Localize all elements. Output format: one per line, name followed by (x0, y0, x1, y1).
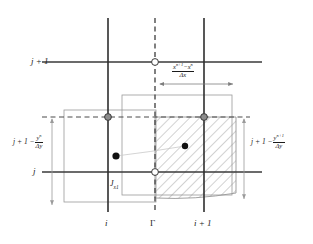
swept-flux-region (155, 117, 236, 198)
diagram-vector-layer (0, 0, 313, 244)
left-label-prefix: j + 1 − (13, 137, 35, 146)
axis-label-i-plus-1: i + 1 (194, 219, 212, 228)
right-label-denominator: Δy (273, 143, 285, 150)
left-label-numerator-sup: n (39, 133, 41, 138)
left-label-denominator: Δy (35, 143, 44, 150)
dx-denominator: Δx (172, 72, 194, 79)
diagram-canvas: j + 1 j j + 1 −ynΔy j + 1 −yn+1Δy xn+1−x… (0, 0, 313, 244)
node-marker-i-interface (105, 114, 112, 121)
right-label-fraction: yn+1Δy (273, 134, 285, 150)
dx-measure-label: xn+1−xnΔx (172, 63, 194, 79)
node-marker-i-plus-1-interface (201, 114, 208, 121)
axis-label-right-interface-height: j + 1 −yn+1Δy (251, 134, 285, 150)
node-marker-gamma-top (152, 59, 159, 66)
axis-label-gamma: Γ (150, 219, 155, 228)
right-label-numerator-sup: n+1 (276, 133, 283, 138)
node-marker-gamma-bottom (152, 169, 159, 176)
axis-label-left-interface-height: j + 1 −ynΔy (13, 134, 43, 150)
particle-dot-new (182, 143, 188, 149)
flux-label-subscript: x1 (114, 184, 119, 190)
right-label-prefix: j + 1 − (251, 137, 273, 146)
dx-fraction: xn+1−xnΔx (172, 63, 194, 79)
particle-dot-old (112, 152, 119, 159)
dx-numerator-sup-b: n (191, 62, 193, 67)
axis-label-i: i (105, 219, 108, 228)
left-label-fraction: ynΔy (35, 134, 44, 150)
axis-label-j-plus-1: j + 1 (31, 57, 49, 66)
dx-numerator-minus: − (183, 63, 187, 70)
flux-label: Jx1 (110, 180, 119, 190)
axis-label-j: j (33, 167, 36, 176)
